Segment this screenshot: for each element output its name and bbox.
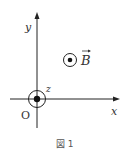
y-axis-arrowhead	[35, 12, 40, 19]
x-axis-arrowhead	[113, 97, 120, 102]
field-label: B	[80, 53, 91, 68]
x-axis-label: x	[111, 105, 118, 118]
figure-caption: 図 1	[56, 139, 74, 149]
z-axis-dot	[34, 96, 40, 102]
z-axis-label: z	[45, 84, 51, 94]
coordinate-diagram: y x z O B 図 1	[0, 0, 129, 155]
origin-label: O	[21, 109, 30, 122]
magnetic-field-dot	[68, 58, 73, 63]
y-axis-label: y	[24, 21, 32, 34]
